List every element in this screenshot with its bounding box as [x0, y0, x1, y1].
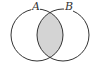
label-a: A	[31, 0, 40, 13]
label-b: B	[64, 0, 73, 13]
venn-diagram: A B	[0, 0, 100, 63]
